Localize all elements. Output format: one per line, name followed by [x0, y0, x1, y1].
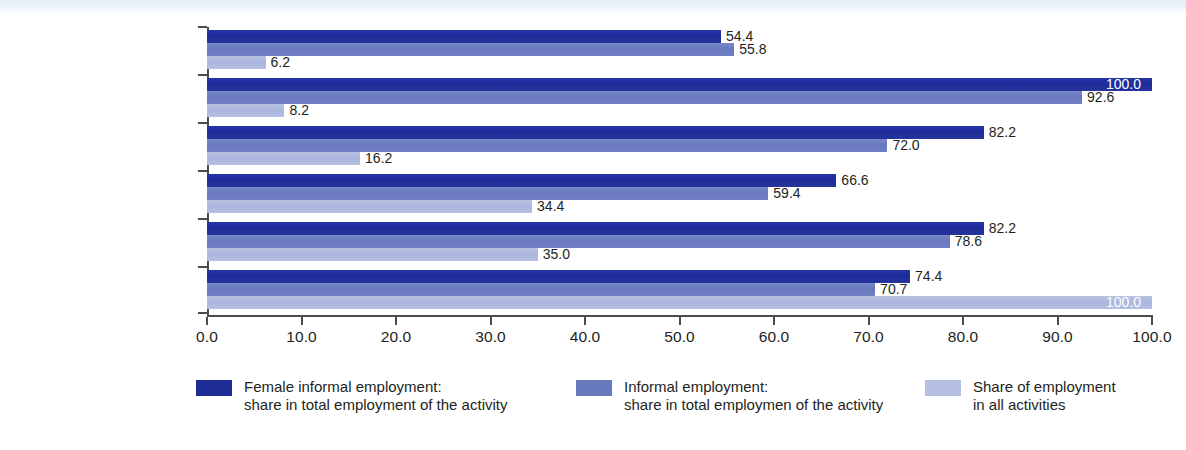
- legend-color-swatch: [196, 380, 232, 396]
- bar-series-1: [207, 283, 875, 296]
- bar-series-0: [207, 78, 1152, 91]
- x-axis-tick: [962, 317, 964, 325]
- x-axis-tick: [206, 317, 208, 325]
- bar-series-1: [207, 235, 950, 248]
- bar-value-label: 72.0: [887, 139, 919, 152]
- y-axis-tick: [198, 218, 207, 220]
- bar-series-0: [207, 174, 836, 187]
- x-axis-tick: [301, 317, 303, 325]
- legend-color-swatch: [925, 380, 961, 396]
- bar-value-label: 35.0: [538, 248, 570, 261]
- bar-group: Transportation54.455.86.2: [207, 30, 1152, 69]
- legend-label: Informal employment: share in total empl…: [624, 378, 883, 414]
- y-axis-tick: [198, 74, 207, 76]
- bar-series-2: [207, 200, 532, 213]
- bar-series-2: [207, 152, 360, 165]
- bar-value-label: 100.0: [1106, 296, 1145, 309]
- bar-series-0: [207, 222, 984, 235]
- bar-series-0: [207, 126, 984, 139]
- bar-value-label: 78.6: [950, 235, 982, 248]
- bar-value-label: 74.4: [910, 270, 942, 283]
- x-axis-tick-label: 70.0: [853, 328, 884, 346]
- bar-series-1: [207, 139, 887, 152]
- x-axis-tick: [490, 317, 492, 325]
- bar-value-label: 34.4: [532, 200, 564, 213]
- legend-item[interactable]: Female informal employment: share in tot…: [196, 378, 507, 414]
- y-axis-tick: [198, 312, 207, 314]
- x-axis-tick-label: 90.0: [1042, 328, 1073, 346]
- bar-value-label: 92.6: [1082, 91, 1114, 104]
- bar-value-label: 59.4: [768, 187, 800, 200]
- y-axis-tick: [198, 266, 207, 268]
- legend-color-swatch: [576, 380, 612, 396]
- x-axis-tick-label: 20.0: [381, 328, 412, 346]
- legend-item[interactable]: Informal employment: share in total empl…: [576, 378, 883, 414]
- bar-value-label: 66.6: [836, 174, 868, 187]
- chart-legend: Female informal employment: share in tot…: [0, 378, 1186, 438]
- x-axis-tick-label: 60.0: [759, 328, 790, 346]
- bar-series-2: [207, 296, 1152, 309]
- bar-value-label: 6.2: [266, 56, 290, 69]
- bar-value-label: 8.2: [284, 104, 308, 117]
- bar-group: Manufacturing82.272.016.2: [207, 126, 1152, 165]
- bar-value-label: 70.7: [875, 283, 907, 296]
- x-axis-tick-label: 80.0: [948, 328, 979, 346]
- bar-value-label: 82.2: [984, 126, 1016, 139]
- x-axis-tick: [679, 317, 681, 325]
- x-axis-tick-label: 40.0: [570, 328, 601, 346]
- x-axis-tick: [773, 317, 775, 325]
- bar-value-label: 55.8: [734, 43, 766, 56]
- legend-item[interactable]: Share of employment in all activities: [925, 378, 1116, 414]
- x-axis-tick: [584, 317, 586, 325]
- x-axis-tick-label: 50.0: [664, 328, 695, 346]
- bar-series-0: [207, 30, 721, 43]
- bar-group: Trade82.278.635.0: [207, 222, 1152, 261]
- x-axis-tick: [395, 317, 397, 325]
- x-axis-tick-label: 0.0: [196, 328, 218, 346]
- bar-group: All non-agricultural activities74.470.71…: [207, 270, 1152, 309]
- bar-series-2: [207, 56, 266, 69]
- bar-group: Services other than trade or transportat…: [207, 174, 1152, 213]
- bar-value-label: 16.2: [360, 152, 392, 165]
- bar-series-2: [207, 104, 284, 117]
- x-axis-tick-label: 100.0: [1132, 328, 1171, 346]
- x-axis-tick-label: 30.0: [475, 328, 506, 346]
- bar-value-label: 82.2: [984, 222, 1016, 235]
- legend-label: Share of employment in all activities: [973, 378, 1116, 414]
- bar-series-0: [207, 270, 910, 283]
- bar-series-2: [207, 248, 538, 261]
- legend-label: Female informal employment: share in tot…: [244, 378, 507, 414]
- bar-series-1: [207, 91, 1082, 104]
- y-axis-tick: [198, 26, 207, 28]
- x-axis-tick: [1057, 317, 1059, 325]
- x-axis-tick-label: 10.0: [286, 328, 317, 346]
- bar-group: Construction100.092.68.2: [207, 78, 1152, 117]
- x-axis-tick: [868, 317, 870, 325]
- bar-series-1: [207, 187, 768, 200]
- x-axis-tick: [1151, 317, 1153, 325]
- y-axis-tick: [198, 122, 207, 124]
- y-axis-tick: [198, 170, 207, 172]
